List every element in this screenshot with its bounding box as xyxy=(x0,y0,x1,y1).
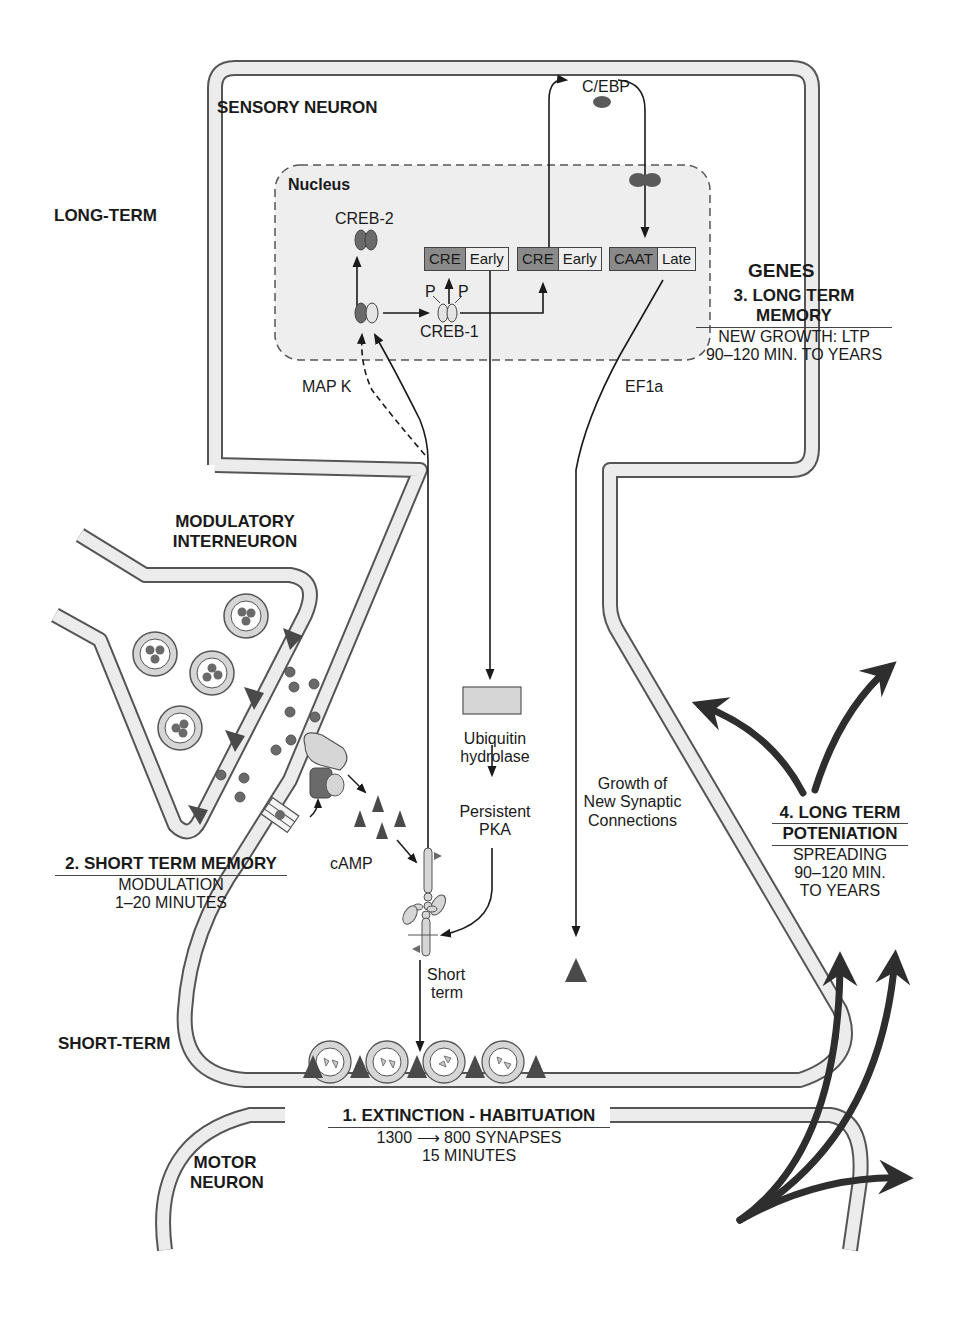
gene-type: Early xyxy=(466,248,508,270)
modulatory-interneuron-label: MODULATORY INTERNEURON xyxy=(170,512,300,551)
gene-element: CRE xyxy=(518,248,559,270)
stage-line: MODULATION xyxy=(55,876,287,894)
stage-3-long-term-memory: 3. LONG TERM MEMORY NEW GROWTH: LTP 90–1… xyxy=(696,286,892,364)
stage-line: TO YEARS xyxy=(772,882,908,900)
phospho-right-label: P xyxy=(458,283,469,301)
pka-line2: PKA xyxy=(450,821,540,839)
sensory-neuron-label: SENSORY NEURON xyxy=(217,98,378,118)
phospho-left-label: P xyxy=(425,283,436,301)
gene-type: Early xyxy=(559,248,601,270)
growth-label: Growth of New Synaptic Connections xyxy=(575,775,690,830)
nucleus-label: Nucleus xyxy=(288,176,350,194)
stage-line: NEW GROWTH: LTP xyxy=(696,328,892,346)
stage-line: 1300 ⟶ 800 SYNAPSES xyxy=(328,1128,610,1147)
stage-line: 15 MINUTES xyxy=(328,1147,610,1165)
creb2-label: CREB-2 xyxy=(335,210,394,228)
growth-line1: Growth of xyxy=(575,775,690,793)
short-line2: term xyxy=(427,984,465,1002)
modulatory-interneuron-membrane xyxy=(55,535,310,831)
pka-molecule xyxy=(400,848,449,956)
growth-line3: Connections xyxy=(575,812,690,830)
stage-4-long-term-potentiation: 4. LONG TERM POTENIATION SPREADING 90–12… xyxy=(772,803,908,900)
motor-neuron-label: MOTOR NEURON xyxy=(190,1153,260,1192)
motor-label-line1: MOTOR xyxy=(190,1153,260,1173)
gene-type: Late xyxy=(658,248,695,270)
short-term-label: SHORT-TERM xyxy=(58,1034,170,1054)
stage-line: 90–120 MIN. xyxy=(772,864,908,882)
persistent-pka-label: Persistent PKA xyxy=(450,803,540,840)
growth-line2: New Synaptic xyxy=(575,793,690,811)
gene-box-cre-early-1: CRE Early xyxy=(424,247,509,271)
stage-line: 90–120 MIN. TO YEARS xyxy=(696,346,892,364)
pka-line1: Persistent xyxy=(450,803,540,821)
stage-2-short-term-memory: 2. SHORT TERM MEMORY MODULATION 1–20 MIN… xyxy=(55,854,287,912)
gene-box-cre-early-2: CRE Early xyxy=(517,247,602,271)
ubiquitin-line1: Ubiquitin xyxy=(450,730,540,748)
gene-element: CAAT xyxy=(610,248,658,270)
short-line1: Short xyxy=(427,966,465,984)
modulatory-label-line1: MODULATORY xyxy=(170,512,300,532)
genes-label: GENES xyxy=(748,260,815,282)
stage-1-extinction-habituation: 1. EXTINCTION - HABITUATION 1300 ⟶ 800 S… xyxy=(328,1106,610,1165)
cebp-monomer xyxy=(593,96,611,108)
short-term-arrow-label: Short term xyxy=(427,966,465,1003)
ubiquitin-hydrolase-label: Ubiquitin hydrolase xyxy=(450,730,540,767)
ubiquitin-line2: hydrolase xyxy=(450,748,540,766)
camp-label: cAMP xyxy=(330,855,373,873)
ubiquitin-hydrolase-box xyxy=(463,687,521,714)
stage-title: 3. LONG TERM MEMORY xyxy=(696,286,892,328)
stage-title: 2. SHORT TERM MEMORY xyxy=(55,854,287,876)
mapk-label: MAP K xyxy=(302,378,352,396)
modulatory-label-line2: INTERNEURON xyxy=(170,532,300,552)
long-term-label: LONG-TERM xyxy=(54,206,157,226)
stage-line: SPREADING xyxy=(772,846,908,864)
new-synapse-triangle xyxy=(565,958,587,982)
ef1a-label: EF1a xyxy=(625,378,663,396)
gene-box-caat-late: CAAT Late xyxy=(609,247,696,271)
stage-line: 1–20 MINUTES xyxy=(55,894,287,912)
stage-title-line2: POTENIATION xyxy=(772,823,908,846)
motor-label-line2: NEURON xyxy=(190,1173,260,1193)
stage-title-line1: 4. LONG TERM xyxy=(772,803,908,823)
cebp-label: C/EBP xyxy=(582,78,630,96)
stage-title: 1. EXTINCTION - HABITUATION xyxy=(328,1106,610,1128)
gene-element: CRE xyxy=(425,248,466,270)
camp-triangles xyxy=(354,795,406,839)
creb1-label: CREB-1 xyxy=(420,323,479,341)
